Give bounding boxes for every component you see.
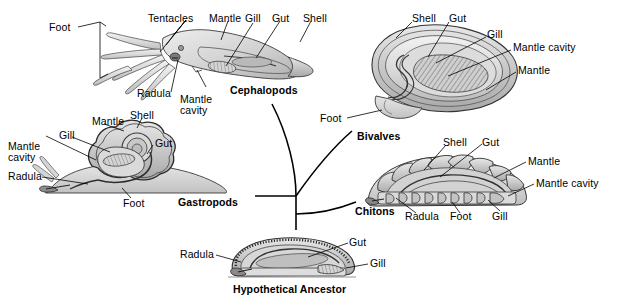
taxon-label-gastropods: Gastropods (178, 196, 238, 208)
gastropod-label-shell: Shell (130, 110, 154, 122)
ancestor-label-radula: Radula (180, 249, 214, 261)
cephalopod-label-gut: Gut (272, 13, 289, 25)
taxon-label-cephalopods: Cephalopods (230, 84, 298, 96)
chiton-label-mantle: Mantle (528, 156, 560, 168)
taxon-label-bivalves: Bivalves (357, 130, 400, 142)
cephalopod-label-mantle: Mantle (209, 13, 241, 25)
gastropod-label-gut: Gut (155, 138, 172, 150)
bivalve-label-gut: Gut (449, 13, 466, 25)
bivalve-label-foot: Foot (320, 113, 341, 125)
chiton-label-shell: Shell (443, 137, 467, 149)
chiton-illustration (366, 155, 527, 206)
bivalve-label-mantle-cavity: Mantle cavity (513, 42, 576, 54)
ancestor-label-gill: Gill (370, 258, 386, 270)
ancestor-illustration (228, 238, 356, 277)
cephalopod-label-foot: Foot (49, 22, 70, 34)
gastropod-label-gill: Gill (59, 130, 75, 142)
chiton-label-foot: Foot (450, 211, 471, 223)
chiton-label-mantle-cavity: Mantle cavity (536, 178, 599, 190)
chiton-label-gut: Gut (482, 137, 499, 149)
chiton-label-radula: Radula (405, 211, 439, 223)
ancestor-label-gut: Gut (349, 237, 366, 249)
taxon-label-chitons: Chitons (355, 205, 395, 217)
bivalve-label-gill: Gill (487, 29, 503, 41)
bivalve-label-mantle: Mantle (518, 65, 550, 77)
gastropod-label-mantle-cavity-line2: cavity (8, 152, 35, 164)
gastropod-label-mantle: Mantle (92, 116, 124, 128)
bivalve-label-shell: Shell (412, 13, 436, 25)
cephalopod-label-mantle-cavity-line2: cavity (180, 105, 207, 117)
mollusc-phylogeny-figure: Foot Tentacles Mantle Gill Gut Shell Rad… (0, 0, 621, 301)
cephalopod-label-gill: Gill (245, 13, 261, 25)
cephalopod-label-radula: Radula (137, 88, 171, 100)
chiton-label-gill: Gill (492, 211, 508, 223)
taxon-label-hypothetical-ancestor: Hypothetical Ancestor (233, 283, 346, 295)
gastropod-label-radula: Radula (8, 171, 42, 183)
gastropod-label-foot: Foot (123, 198, 144, 210)
cephalopod-label-tentacles: Tentacles (148, 13, 193, 25)
cephalopod-label-shell: Shell (303, 13, 327, 25)
